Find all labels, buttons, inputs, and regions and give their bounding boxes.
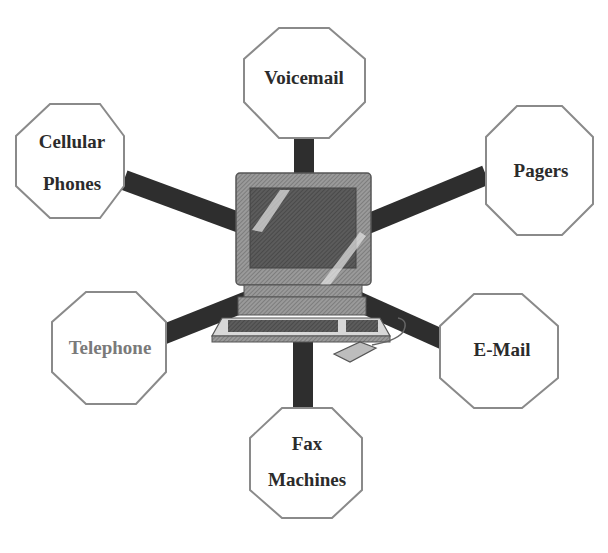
- computer-workstation-icon: [212, 173, 405, 362]
- node-pagers: Pagers: [514, 154, 569, 188]
- node-label-line: Pagers: [514, 154, 569, 188]
- node-e-mail: E-Mail: [474, 333, 531, 367]
- communication-hub-diagram: Voicemail Cellular Phones Pagers Telepho…: [0, 0, 608, 553]
- node-label-line: Voicemail: [264, 61, 344, 95]
- node-label-line: Phones: [39, 163, 106, 205]
- node-label-line: Machines: [268, 462, 346, 498]
- connector-cellular-phones: [124, 180, 246, 225]
- node-voicemail: Voicemail: [264, 61, 344, 95]
- node-label-line: Fax: [268, 426, 346, 462]
- connector-pagers: [365, 175, 486, 225]
- node-label-line: Telephone: [69, 331, 152, 365]
- node-fax-machines: Fax Machines: [268, 426, 346, 498]
- node-label-line: E-Mail: [474, 333, 531, 367]
- node-telephone: Telephone: [69, 331, 152, 365]
- node-label-line: Cellular: [39, 121, 106, 163]
- node-cellular-phones: Cellular Phones: [39, 121, 106, 205]
